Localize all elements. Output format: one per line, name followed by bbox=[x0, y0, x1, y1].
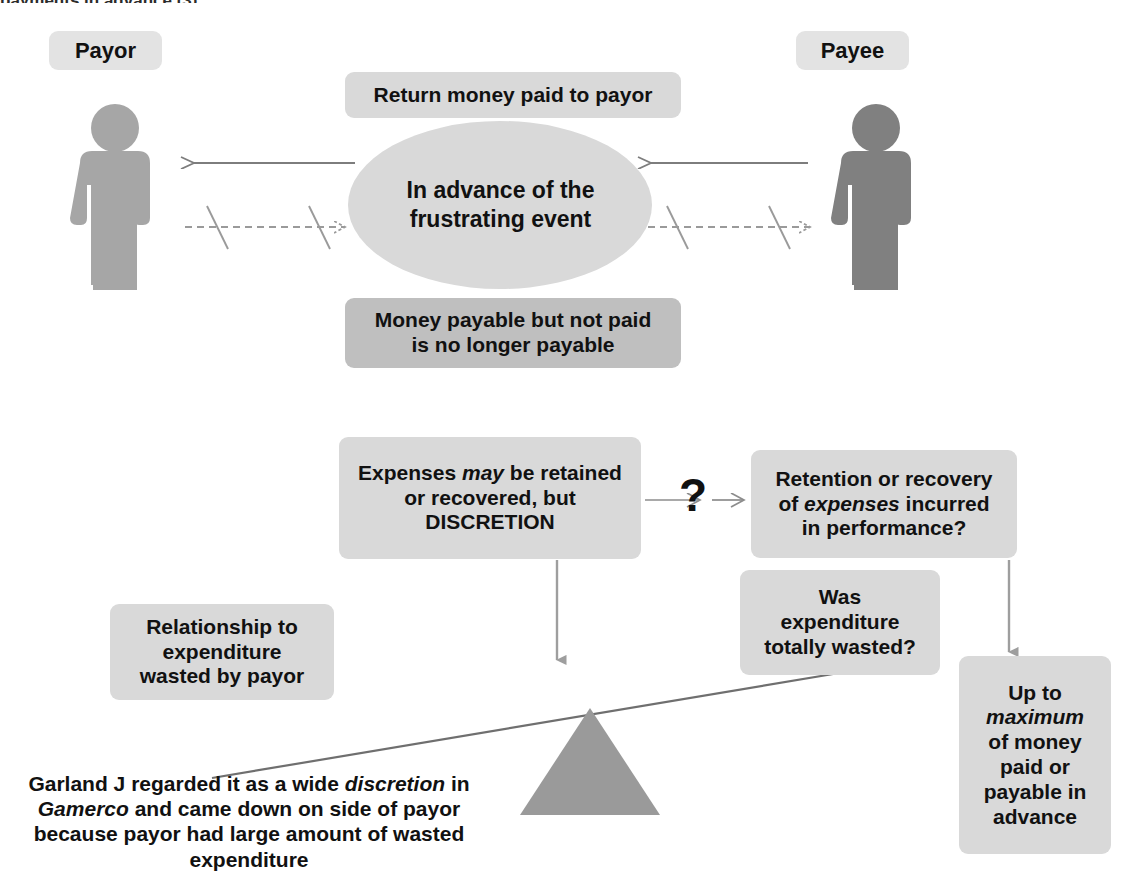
payee-label-text: Payee bbox=[821, 38, 885, 64]
footnote-line-3: because payor had large amount of wasted bbox=[4, 821, 494, 846]
footnote-line-4: expenditure bbox=[4, 847, 494, 872]
no-longer-payable-line-1: Money payable but not paid bbox=[375, 308, 652, 333]
retention-line-3: in performance? bbox=[802, 516, 967, 541]
footnote-line-2: Gamerco and came down on side of payor bbox=[4, 796, 494, 821]
was-expenditure-wasted-box: Was expenditure totally wasted? bbox=[740, 570, 940, 675]
up-to-maximum-box: Up to maximum of money paid or payable i… bbox=[959, 656, 1111, 854]
footnote-line-1: Garland J regarded it as a wide discreti… bbox=[4, 771, 494, 796]
expenses-discretion-box: Expenses may be retained or recovered, b… bbox=[339, 437, 641, 559]
center-ellipse-label: In advance of the frustrating event bbox=[348, 176, 653, 234]
maximum-line-5: payable in bbox=[984, 780, 1087, 805]
left-strike-2 bbox=[309, 206, 330, 249]
ellipse-line-2: frustrating event bbox=[348, 205, 653, 234]
payee-label: Payee bbox=[796, 31, 909, 70]
footnote-emphasis-gamerco: Gamerco bbox=[38, 797, 129, 820]
maximum-line-2: maximum bbox=[986, 705, 1084, 730]
retention-line-2-b: incurred bbox=[900, 492, 990, 515]
right-strike-2 bbox=[769, 206, 790, 249]
expenses-emphasis-may: may bbox=[462, 461, 504, 484]
right-strike-1 bbox=[667, 206, 688, 249]
relationship-line-1: Relationship to bbox=[146, 615, 298, 640]
return-money-box: Return money paid to payor bbox=[345, 72, 681, 118]
no-longer-payable-box: Money payable but not paid is no longer … bbox=[345, 298, 681, 368]
expenses-line-3: DISCRETION bbox=[425, 510, 555, 535]
cropped-title-fragment: payments in advance (3) bbox=[0, 0, 1137, 3]
relationship-expenditure-box: Relationship to expenditure wasted by pa… bbox=[110, 604, 334, 700]
maximum-line-6: advance bbox=[993, 805, 1077, 830]
return-money-text: Return money paid to payor bbox=[374, 83, 653, 108]
retention-line-1: Retention or recovery bbox=[775, 467, 992, 492]
left-strike-1 bbox=[207, 206, 228, 249]
retention-line-2-a: of bbox=[778, 492, 804, 515]
footnote-emphasis-discretion: discretion bbox=[345, 772, 445, 795]
diagram-canvas: payments in advance (3) bbox=[0, 0, 1137, 890]
payor-label-text: Payor bbox=[75, 38, 136, 64]
wasted-line-3: totally wasted? bbox=[764, 635, 916, 660]
retention-line-2: of expenses incurred bbox=[778, 492, 989, 517]
footnote-text: Garland J regarded it as a wide discreti… bbox=[4, 771, 494, 872]
retention-emphasis-expenses: expenses bbox=[804, 492, 900, 515]
footnote-line-1-b: in bbox=[445, 772, 470, 795]
relationship-line-3: wasted by payor bbox=[140, 664, 305, 689]
relationship-line-2: expenditure bbox=[162, 640, 281, 665]
payor-person-icon bbox=[70, 104, 150, 290]
ellipse-line-1: In advance of the bbox=[348, 176, 653, 205]
no-longer-payable-line-2: is no longer payable bbox=[411, 333, 614, 358]
payor-label: Payor bbox=[49, 31, 162, 70]
expenses-line-1-a: Expenses bbox=[358, 461, 462, 484]
retention-recovery-box: Retention or recovery of expenses incurr… bbox=[751, 450, 1017, 558]
maximum-line-4: paid or bbox=[1000, 755, 1070, 780]
maximum-line-1: Up to bbox=[1008, 681, 1062, 706]
payee-person-icon bbox=[831, 104, 911, 290]
maximum-emphasis: maximum bbox=[986, 705, 1084, 728]
maximum-line-3: of money bbox=[988, 730, 1081, 755]
wasted-line-1: Was bbox=[819, 585, 861, 610]
expenses-line-2: or recovered, but bbox=[404, 486, 576, 511]
footnote-line-2-b: and came down on side of payor bbox=[129, 797, 460, 820]
seesaw-fulcrum bbox=[520, 708, 660, 815]
expenses-line-1-b: be retained bbox=[504, 461, 622, 484]
footnote-line-1-a: Garland J regarded it as a wide bbox=[28, 772, 344, 795]
question-mark-marker: ? bbox=[679, 472, 707, 518]
expenses-line-1: Expenses may be retained bbox=[358, 461, 622, 486]
wasted-line-2: expenditure bbox=[780, 610, 899, 635]
